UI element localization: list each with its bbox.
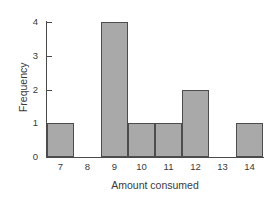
x-axis-tick-label: 14 (238, 162, 262, 172)
x-axis-line (46, 157, 264, 158)
x-axis-title: Amount consumed (47, 180, 263, 191)
y-axis-tick-label: 4 (0, 17, 38, 27)
plot-area (47, 22, 263, 157)
x-axis-tick-label: 12 (184, 162, 208, 172)
histogram-bar (101, 22, 128, 157)
histogram-bar (155, 123, 182, 157)
x-axis-tick-label: 9 (103, 162, 127, 172)
histogram-bar (236, 123, 263, 157)
histogram-bar (182, 90, 209, 158)
histogram-figure: 01234 7891011121314 Amount consumed Freq… (0, 0, 279, 201)
x-axis-tick-label: 7 (49, 162, 73, 172)
histogram-bar (47, 123, 74, 157)
histogram-bar (128, 123, 155, 157)
y-axis-title: Frequency (18, 42, 29, 132)
x-axis-tick-label: 11 (157, 162, 181, 172)
x-axis-tick-label: 10 (130, 162, 154, 172)
x-axis-tick-label: 13 (211, 162, 235, 172)
y-axis-tick-label: 0 (0, 152, 38, 162)
x-axis-tick-label: 8 (76, 162, 100, 172)
y-axis-tick (47, 157, 52, 158)
